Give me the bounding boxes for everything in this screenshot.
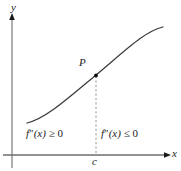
x-tick-label-c: c	[92, 156, 97, 167]
inflection-point-marker	[94, 74, 98, 78]
right-value: 0	[132, 127, 138, 139]
y-axis-label: y	[11, 2, 16, 13]
figure-canvas	[0, 0, 181, 171]
inflection-point-label: P	[79, 57, 86, 68]
x-axis-arrowhead	[164, 152, 171, 157]
right-relation-symbol: ≤	[124, 127, 130, 139]
concave-up-label: f″(x) ≥ 0	[26, 128, 63, 139]
x-axis-label: x	[172, 148, 177, 159]
concave-down-label: f″(x) ≤ 0	[101, 128, 138, 139]
y-axis-arrowhead	[9, 13, 15, 20]
left-relation-symbol: ≥	[49, 127, 55, 139]
right-argument: (x)	[109, 127, 121, 139]
inflection-point-figure: y x P c f″(x) ≥ 0 f″(x) ≤ 0	[0, 0, 181, 171]
left-argument: (x)	[34, 127, 46, 139]
left-value: 0	[57, 127, 63, 139]
